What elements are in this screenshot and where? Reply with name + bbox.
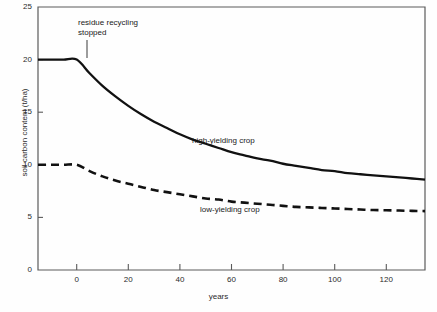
annotation-line-1: residue recycling (78, 18, 138, 28)
y-tick-label: 25 (10, 2, 32, 11)
x-axis-label: years (0, 292, 437, 301)
y-axis-label: soil carbon content (t/ha) (20, 73, 29, 193)
x-tick-label: 80 (271, 275, 295, 284)
series-label-low-yielding-crop: low-yielding crop (200, 205, 260, 214)
y-tick-label: 10 (10, 160, 32, 169)
x-tick-label: 100 (323, 275, 347, 284)
x-tick-label: 60 (220, 275, 244, 284)
x-tick-label: 120 (374, 275, 398, 284)
series-label-high-yielding-crop: high-yielding crop (192, 136, 255, 145)
x-tick-label: 20 (116, 275, 140, 284)
x-tick-label: 0 (65, 275, 89, 284)
series-curves (38, 59, 425, 212)
annotation-residue-recycling-stopped: residue recycling stopped (78, 18, 138, 38)
annotation-line-2: stopped (78, 28, 138, 38)
cropped-caption-artifact (4, 303, 244, 310)
x-tick-label: 40 (168, 275, 192, 284)
y-tick-label: 5 (10, 212, 32, 221)
y-tick-label: 0 (10, 265, 32, 274)
y-tick-label: 15 (10, 107, 32, 116)
y-axis-ticks (38, 60, 43, 218)
chart-figure: soil carbon content (t/ha) years high-yi… (0, 0, 437, 312)
x-axis-ticks (77, 264, 387, 270)
series-curve-high-yielding-crop (38, 59, 425, 180)
chart-plot-area (0, 0, 437, 312)
y-tick-label: 20 (10, 55, 32, 64)
